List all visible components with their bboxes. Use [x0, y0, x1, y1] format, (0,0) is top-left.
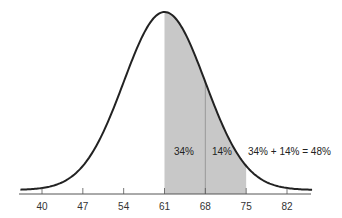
region1-label: 34% [174, 146, 194, 157]
tick-label: 75 [241, 201, 253, 212]
tick-label: 54 [118, 201, 130, 212]
tick-label: 40 [36, 201, 48, 212]
tick-label: 61 [159, 201, 171, 212]
tick-label: 68 [200, 201, 212, 212]
x-axis-ticks: 40475461687582 [36, 188, 293, 212]
tick-label: 82 [281, 201, 293, 212]
region2-label: 14% [212, 146, 232, 157]
tick-label: 47 [77, 201, 89, 212]
sum-annotation: 34% + 14% = 48% [248, 146, 331, 157]
normal-distribution-chart: 40475461687582 34% 14% 34% + 14% = 48% [0, 0, 342, 218]
shaded-region-1 [165, 12, 206, 194]
